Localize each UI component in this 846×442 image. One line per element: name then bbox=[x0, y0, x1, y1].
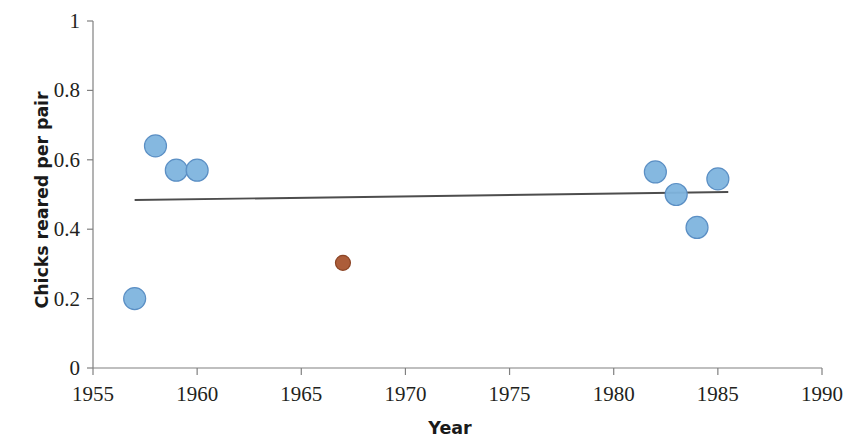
y-tick-label: 1 bbox=[0, 9, 80, 34]
data-point bbox=[644, 161, 666, 183]
data-point bbox=[186, 159, 208, 181]
x-tick-label: 1960 bbox=[176, 382, 218, 407]
trendline bbox=[135, 192, 729, 200]
axes bbox=[87, 21, 822, 375]
x-axis-title: Year bbox=[0, 418, 846, 438]
x-tick-label: 1975 bbox=[489, 382, 531, 407]
data-point bbox=[165, 159, 187, 181]
data-point bbox=[686, 216, 708, 238]
scatter-chart: 00.20.40.60.81 1955196019651970197519801… bbox=[0, 0, 846, 442]
data-points bbox=[124, 135, 729, 310]
data-point bbox=[124, 288, 146, 310]
data-point bbox=[335, 255, 350, 270]
x-tick-label: 1985 bbox=[697, 382, 739, 407]
data-point bbox=[707, 168, 729, 190]
y-tick-label: 0 bbox=[0, 356, 80, 381]
data-point bbox=[665, 184, 687, 206]
data-point bbox=[144, 135, 166, 157]
plot-area bbox=[0, 0, 846, 442]
x-tick-label: 1965 bbox=[280, 382, 322, 407]
y-axis-title: Chicks reared per pair bbox=[32, 70, 52, 330]
x-tick-label: 1980 bbox=[593, 382, 635, 407]
x-tick-label: 1955 bbox=[72, 382, 114, 407]
x-tick-label: 1970 bbox=[384, 382, 426, 407]
x-tick-label: 1990 bbox=[801, 382, 843, 407]
